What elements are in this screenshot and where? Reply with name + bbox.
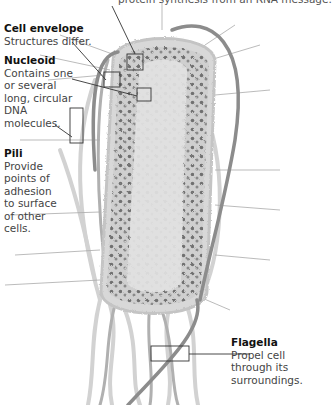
label-cell-envelope: Cell envelope Structures differ.	[4, 22, 104, 47]
label-text: Provide points of adhesion to surface of…	[4, 160, 57, 235]
label-title: Flagella	[231, 336, 291, 349]
cell-body	[100, 38, 214, 313]
label-title: Nucleoid	[4, 54, 74, 67]
label-text: Contains one or several long, circular D…	[4, 67, 73, 129]
label-pili: Pili Provide points of adhesion to surfa…	[4, 147, 64, 235]
label-nucleoid: Nucleoid Contains one or several long, c…	[4, 54, 74, 129]
top-caption: protein synthesis from an RNA message.	[118, 0, 332, 5]
label-text: Propel cell through its surroundings.	[231, 349, 303, 386]
label-text: Structures differ.	[4, 35, 92, 47]
label-title: Pili	[4, 147, 23, 159]
label-title: Cell envelope	[4, 22, 104, 35]
label-flagella: Flagella Propel cell through its surroun…	[231, 336, 291, 386]
